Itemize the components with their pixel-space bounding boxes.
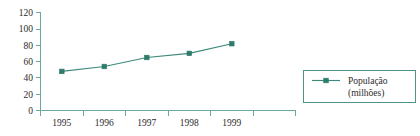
- y-tick-label-60: 60: [24, 57, 34, 67]
- x-tick-label-1995: 1995: [52, 118, 71, 128]
- y-tick-label-20: 20: [24, 90, 34, 100]
- data-point-1999: [230, 41, 235, 46]
- chart-legend: População (milhões): [304, 71, 416, 103]
- x-axis-ticks: [41, 111, 296, 117]
- y-tick-label-40: 40: [24, 73, 34, 83]
- data-point-1997: [145, 55, 150, 60]
- legend-sample-marker: [324, 78, 329, 83]
- x-tick-label-1996: 1996: [95, 118, 114, 128]
- y-tick-label-80: 80: [24, 41, 34, 51]
- data-point-1998: [187, 51, 192, 56]
- x-tick-label-1997: 1997: [137, 118, 156, 128]
- data-point-1995: [60, 69, 65, 74]
- chart-canvas: 0 20 40 60 80 100 120 1995 1996 1997 199…: [0, 0, 420, 136]
- data-point-1996: [102, 64, 107, 69]
- legend-label-line1: População: [348, 76, 388, 86]
- y-tick-label-0: 0: [28, 106, 33, 116]
- x-tick-label-1999: 1999: [222, 118, 241, 128]
- population-line-chart: 0 20 40 60 80 100 120 1995 1996 1997 199…: [0, 0, 420, 136]
- y-axis-tick-labels: 0 20 40 60 80 100 120: [19, 8, 34, 116]
- legend-label-line2: (milhões): [348, 88, 384, 99]
- x-axis-tick-labels: 1995 1996 1997 1998 1999: [52, 118, 241, 128]
- y-tick-label-100: 100: [19, 24, 34, 34]
- y-axis-ticks: [36, 13, 41, 111]
- y-tick-label-120: 120: [19, 8, 34, 18]
- x-tick-label-1998: 1998: [180, 118, 199, 128]
